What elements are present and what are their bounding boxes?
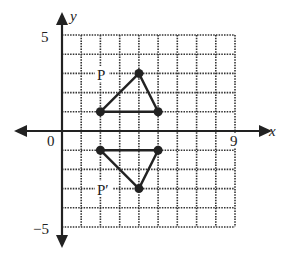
vertex-p-1 bbox=[96, 107, 105, 116]
vertex-pp-3 bbox=[154, 146, 163, 155]
y-axis-label: y bbox=[68, 8, 77, 24]
y-max-label: 5 bbox=[41, 29, 49, 45]
figure-p-prime-label: P′ bbox=[97, 182, 109, 198]
vertex-pp-2 bbox=[134, 184, 143, 193]
x-axis-label: x bbox=[268, 123, 276, 139]
x-max-label: 9 bbox=[230, 133, 238, 149]
figure-p-label: P bbox=[97, 67, 105, 83]
x-axis-left-arrow-icon bbox=[14, 125, 27, 137]
coordinate-grid-diagram: y x 5 0 9 −5 P P′ bbox=[0, 0, 286, 259]
vertex-p-2 bbox=[134, 69, 143, 78]
vertex-p-3 bbox=[154, 107, 163, 116]
y-axis-up-arrow-icon bbox=[56, 12, 68, 25]
origin-label: 0 bbox=[47, 133, 55, 149]
y-axis-down-arrow-icon bbox=[56, 235, 68, 248]
vertex-pp-1 bbox=[96, 146, 105, 155]
y-min-label: −5 bbox=[33, 221, 49, 237]
